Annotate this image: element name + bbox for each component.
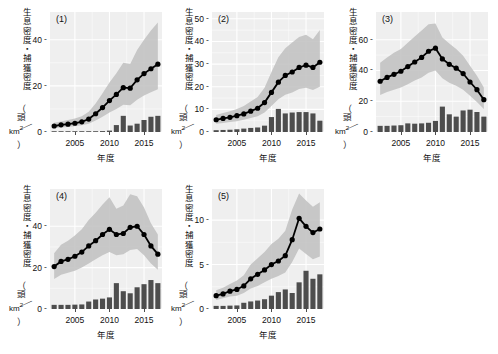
y-axis-tick-mark: - — [44, 262, 47, 272]
chart-panel-1: 生息密度・捕獲密度（頭／km2）0-20-40-(1)200520102015年… — [0, 0, 166, 177]
x-axis-tick-mark — [144, 309, 145, 312]
y-axis-tick-label: 0 — [348, 127, 368, 137]
y-axis-tick-label: 30 — [184, 59, 204, 69]
y-axis-tick-label: 0 — [184, 127, 204, 137]
x-axis-tick-label: 2005 — [61, 315, 89, 325]
y-axis-tick-label: 40 — [22, 35, 42, 45]
y-axis-tick-mark: - — [206, 103, 209, 113]
panel-label: (4) — [56, 191, 67, 201]
y-axis-unit-km-group: km2 — [9, 302, 23, 313]
x-axis-tick-mark — [75, 309, 76, 312]
y-axis-tick-label: 20 — [22, 81, 42, 91]
y-axis-unit-km-group: km2 — [171, 302, 185, 313]
x-axis-tick-mark — [237, 309, 238, 312]
figure-panel-grid: 生息密度・捕獲密度（頭／km2）0-20-40-(1)200520102015年… — [0, 0, 498, 354]
y-axis-tick-mark: - — [206, 81, 209, 91]
y-axis-tick-mark: - — [44, 303, 47, 313]
x-axis-tick-label: 2005 — [223, 315, 251, 325]
y-axis-tick-mark: - — [206, 35, 209, 45]
chart-panel-4: 生息密度・捕獲密度（頭／km2）0-20-40-(4)200520102015年… — [0, 177, 166, 354]
panel-label: (5) — [218, 191, 229, 201]
x-axis-title: 年度 — [86, 328, 126, 340]
x-axis-tick-mark — [401, 132, 402, 135]
y-axis-tick-mark: - — [44, 126, 47, 136]
y-axis-tick-label: 40 — [184, 36, 204, 46]
x-axis-tick-label: 2015 — [292, 315, 320, 325]
y-axis-tick-label: 20 — [22, 263, 42, 273]
chart-panel-5: 生息密度・捕獲密度（頭／km2）0-5-10-(5)200520102015年度 — [162, 177, 328, 354]
y-axis-title-char: 度 — [340, 82, 366, 91]
y-axis-unit-km: km — [171, 304, 182, 313]
y-axis-tick-label: 10 — [184, 215, 204, 225]
y-axis-unit-km: km — [335, 127, 346, 136]
x-axis-tick-mark — [306, 132, 307, 135]
x-axis-tick-label: 2010 — [95, 315, 123, 325]
y-axis-tick-label: 10 — [184, 104, 204, 114]
y-axis-tick-mark: - — [44, 80, 47, 90]
y-axis-paren-close: ） — [17, 315, 26, 328]
y-axis-tick-mark: - — [206, 58, 209, 68]
x-axis-tick-label: 2015 — [130, 138, 158, 148]
y-axis-paren-close: ） — [343, 138, 352, 151]
y-axis-tick-mark: - — [206, 259, 209, 269]
x-axis-tick-mark — [271, 132, 272, 135]
x-axis-tick-mark — [435, 132, 436, 135]
x-axis-tick-mark — [109, 132, 110, 135]
plot-area — [50, 12, 162, 132]
y-axis-tick-mark: - — [206, 126, 209, 136]
y-axis-unit-km-group: km2 — [9, 125, 23, 136]
y-axis-paren-close: ） — [179, 315, 188, 328]
x-axis-tick-label: 2010 — [95, 138, 123, 148]
y-axis-unit-km: km — [9, 304, 20, 313]
y-axis-tick-label: 20 — [348, 96, 368, 106]
y-axis-tick-mark: - — [370, 95, 373, 105]
chart-panel-3: 生息密度・捕獲密度（頭／km2）0-20-40-60-(3)2005201020… — [326, 0, 492, 177]
x-axis-title: 年度 — [412, 151, 452, 163]
y-axis-tick-label: 40 — [348, 65, 368, 75]
plot-area — [212, 189, 324, 309]
y-axis-tick-mark: - — [370, 34, 373, 44]
y-axis-tick-mark: - — [206, 13, 209, 23]
y-axis-tick-mark: - — [206, 214, 209, 224]
x-axis-tick-mark — [271, 309, 272, 312]
y-axis-unit-km-group: km2 — [335, 125, 349, 136]
y-axis-tick-label: 20 — [184, 82, 204, 92]
x-axis-tick-label: 2005 — [387, 138, 415, 148]
y-axis-tick-label: 0 — [22, 304, 42, 314]
y-axis-tick-label: 0 — [22, 127, 42, 137]
x-axis-title: 年度 — [248, 151, 288, 163]
x-axis-tick-mark — [75, 132, 76, 135]
panel-label: (1) — [56, 14, 67, 24]
y-axis-unit-km: km — [9, 127, 20, 136]
y-axis-tick-mark: - — [44, 34, 47, 44]
plot-area — [50, 189, 162, 309]
x-axis-tick-label: 2010 — [421, 138, 449, 148]
panel-label: (2) — [218, 14, 229, 24]
y-axis-tick-label: 0 — [184, 304, 204, 314]
x-axis-title: 年度 — [86, 151, 126, 163]
plot-area — [212, 12, 324, 132]
y-axis-tick-label: 50 — [184, 14, 204, 24]
x-axis-tick-label: 2010 — [257, 315, 285, 325]
chart-panel-2: 生息密度・捕獲密度（頭／km2）0-10-20-30-40-50-(2)2005… — [162, 0, 328, 177]
y-axis-paren-close: ） — [17, 138, 26, 151]
y-axis-tick-mark: - — [44, 220, 47, 230]
y-axis-tick-mark: - — [206, 303, 209, 313]
x-axis-tick-label: 2010 — [257, 138, 285, 148]
x-axis-tick-mark — [109, 309, 110, 312]
y-axis-tick-mark: - — [370, 64, 373, 74]
x-axis-tick-label: 2005 — [223, 138, 251, 148]
plot-area — [376, 12, 488, 132]
y-axis-unit-km-group: km2 — [171, 125, 185, 136]
x-axis-tick-label: 2005 — [61, 138, 89, 148]
x-axis-tick-mark — [144, 132, 145, 135]
x-axis-tick-label: 2015 — [130, 315, 158, 325]
x-axis-tick-label: 2015 — [292, 138, 320, 148]
y-axis-unit-km: km — [171, 127, 182, 136]
y-axis-tick-label: 40 — [22, 221, 42, 231]
y-axis-tick-label: 60 — [348, 35, 368, 45]
x-axis-title: 年度 — [248, 328, 288, 340]
x-axis-tick-mark — [237, 132, 238, 135]
x-axis-tick-mark — [470, 132, 471, 135]
y-axis-tick-mark: - — [370, 126, 373, 136]
